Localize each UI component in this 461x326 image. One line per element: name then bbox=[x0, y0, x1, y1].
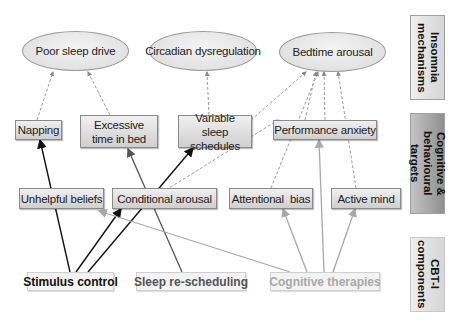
mechanism-label: Bedtime arousal bbox=[292, 46, 372, 58]
side-label-text: Cognitive & behavioural targets bbox=[408, 114, 447, 213]
target-excessive-time-in-bed: Excessive time in bed bbox=[80, 115, 158, 148]
component-sleep-rescheduling: Sleep re-scheduling bbox=[136, 272, 246, 291]
sleep-rescheduling-edges bbox=[128, 149, 182, 272]
component-label: Cognitive therapies bbox=[269, 275, 380, 289]
mechanism-bedtime-arousal: Bedtime arousal bbox=[279, 32, 386, 72]
target-label: Performance anxiety bbox=[274, 123, 376, 137]
target-label: Conditional arousal bbox=[117, 192, 212, 206]
target-performance-anxiety: Performance anxiety bbox=[273, 120, 377, 140]
mechanism-poor-sleep-drive: Poor sleep drive bbox=[22, 31, 129, 71]
target-label: Attentional bias bbox=[232, 192, 310, 206]
mechanism-label: Poor sleep drive bbox=[36, 45, 116, 57]
side-label-text: CBT-I components bbox=[415, 238, 441, 311]
target-label: Napping bbox=[18, 123, 59, 137]
component-stimulus-control: Stimulus control bbox=[27, 272, 114, 291]
target-conditional-arousal: Conditional arousal bbox=[112, 188, 217, 209]
target-napping: Napping bbox=[15, 120, 62, 140]
target-label: Active mind bbox=[337, 192, 394, 206]
side-label-text: Insomnia mechanisms bbox=[415, 16, 441, 99]
side-label-insomnia-mechanisms: Insomnia mechanisms bbox=[410, 15, 445, 100]
side-label-cognitive-behavioural-targets: Cognitive & behavioural targets bbox=[410, 113, 445, 214]
target-label: Variable sleep schedules bbox=[183, 111, 247, 153]
component-label: Stimulus control bbox=[23, 275, 118, 289]
component-label: Sleep re-scheduling bbox=[134, 275, 248, 289]
target-variable-sleep-schedules: Variable sleep schedules bbox=[178, 115, 252, 148]
component-cognitive-therapies: Cognitive therapies bbox=[270, 272, 380, 291]
mechanism-label: Circadian dysregulation bbox=[145, 45, 261, 57]
target-unhelpful-beliefs: Unhelpful beliefs bbox=[19, 188, 104, 209]
side-label-cbt-i-components: CBT-I components bbox=[410, 237, 445, 312]
target-label: Unhelpful beliefs bbox=[21, 192, 103, 206]
mechanism-circadian-dysregulation: Circadian dysregulation bbox=[149, 31, 257, 71]
target-attentional-bias: Attentional bias bbox=[229, 188, 313, 209]
target-active-mind: Active mind bbox=[331, 188, 401, 209]
target-label: Excessive time in bed bbox=[85, 118, 153, 146]
